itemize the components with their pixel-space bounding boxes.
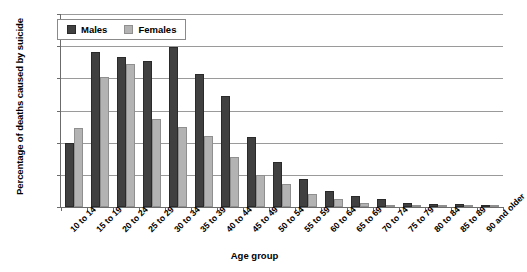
bars-layer xyxy=(61,14,503,207)
bar-females xyxy=(386,205,394,207)
bar-males xyxy=(221,96,229,207)
bar-males xyxy=(143,61,151,207)
bar-females xyxy=(74,128,82,207)
bar-males xyxy=(247,137,255,207)
bar-males xyxy=(169,47,177,207)
bar-females xyxy=(126,64,134,207)
x-tick-label: 50 to 54 xyxy=(276,204,306,234)
bar-females xyxy=(152,119,160,207)
bar-females xyxy=(308,194,316,208)
bar-males xyxy=(299,179,307,207)
x-tick-label: 85 to 89 xyxy=(458,204,488,234)
x-tick-label: 30 to 34 xyxy=(172,204,202,234)
legend-entry-males: Males xyxy=(67,24,107,35)
x-tick-label: 10 to 14 xyxy=(68,204,98,234)
bar-females xyxy=(100,77,108,207)
x-axis-title: Age group xyxy=(0,250,509,261)
bar-females xyxy=(412,205,420,207)
legend-swatch-females-icon xyxy=(124,25,133,34)
bar-males xyxy=(325,191,333,207)
bar-males xyxy=(65,143,73,207)
x-tick-label: 80 to 84 xyxy=(432,204,462,234)
legend-label-males: Males xyxy=(81,24,107,35)
plot-area: 10 to 1415 to 1920 to 2425 to 2930 to 34… xyxy=(60,14,503,208)
x-tick-label: 40 to 44 xyxy=(224,204,254,234)
bar-females xyxy=(204,136,212,207)
bar-males xyxy=(273,162,281,207)
bar-males xyxy=(91,52,99,207)
bar-females xyxy=(360,203,368,208)
bar-females xyxy=(282,184,290,207)
x-tick-label: 20 to 24 xyxy=(120,204,150,234)
x-tick-label: 55 to 59 xyxy=(302,204,332,234)
legend-label-females: Females xyxy=(138,24,176,35)
x-tick-label: 60 to 64 xyxy=(328,204,358,234)
x-tick-label: 25 to 29 xyxy=(146,204,176,234)
bar-females xyxy=(438,205,446,207)
x-tick-mark xyxy=(61,207,62,211)
x-tick-label: 65 to 69 xyxy=(354,204,384,234)
y-axis-title: Percentage of deaths caused by suicide xyxy=(14,2,25,212)
bar-males xyxy=(195,74,203,207)
x-tick-label: 70 to 74 xyxy=(380,204,410,234)
bar-females xyxy=(178,127,186,207)
bar-females xyxy=(334,199,342,207)
bar-females xyxy=(490,205,498,207)
x-tick-label: 15 to 19 xyxy=(94,204,124,234)
legend-entry-females: Females xyxy=(124,24,176,35)
bar-males xyxy=(117,57,125,207)
chart-legend: Males Females xyxy=(57,19,186,40)
x-tick-label: 75 to 79 xyxy=(406,204,436,234)
bar-females xyxy=(464,205,472,207)
legend-swatch-males-icon xyxy=(67,25,76,34)
bar-females xyxy=(230,157,238,207)
x-tick-label: 45 to 49 xyxy=(250,204,280,234)
bar-females xyxy=(256,175,264,207)
x-tick-label: 35 to 39 xyxy=(198,204,228,234)
